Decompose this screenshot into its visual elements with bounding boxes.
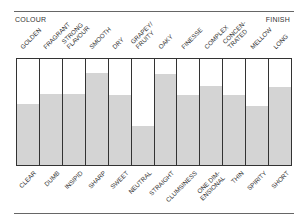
bar-fill [40,94,62,165]
bottom-label: DUMB [43,170,61,188]
bar-fill [109,95,131,165]
bar-column [109,59,132,165]
bottom-label: CLEAR [18,170,37,189]
colour-label: COLOUR [15,16,46,23]
bar-column [246,59,269,165]
bottom-label: SHARP [87,170,107,190]
bar-chart [16,58,292,166]
bar-fill [223,95,245,165]
bottom-label: SHORT [271,170,291,190]
bar-column [269,59,291,165]
bar-column [177,59,200,165]
bar-fill [269,87,291,165]
bar-column [40,59,63,165]
bottom-rule [14,213,294,214]
bar-column [223,59,246,165]
top-label: GRAPEY/FRUITY [130,21,159,50]
bar-column [63,59,86,165]
bottom-label: SPIRITY [246,170,268,192]
bar-column [155,59,178,165]
bottom-label: INSIPID [63,170,84,191]
top-label: OAKY [157,33,174,50]
finish-label: FINISH [266,16,290,23]
top-label: SMOOTH [88,26,112,50]
top-label: GOLDEN [19,27,42,50]
bar-fill [132,126,154,165]
top-label: MELLOW [249,26,273,50]
bar-column [200,59,223,165]
bar-fill [246,106,268,165]
bottom-label: ONE DIM-ENSIONAL [195,170,227,202]
bar-fill [155,74,177,165]
bar-fill [17,104,39,165]
bottom-label: THIN [230,170,245,185]
top-rule [14,11,294,12]
bar-fill [200,86,222,166]
bar-column [86,59,109,165]
top-label: LONG [272,33,289,50]
top-label: DRY [111,36,125,50]
bar-fill [63,94,85,165]
bar-fill [86,73,108,165]
bar-fill [177,95,199,165]
top-label: FINESSE [180,26,204,50]
bar-column [132,59,155,165]
bottom-label: SWEET [109,170,129,190]
bar-column [17,59,40,165]
